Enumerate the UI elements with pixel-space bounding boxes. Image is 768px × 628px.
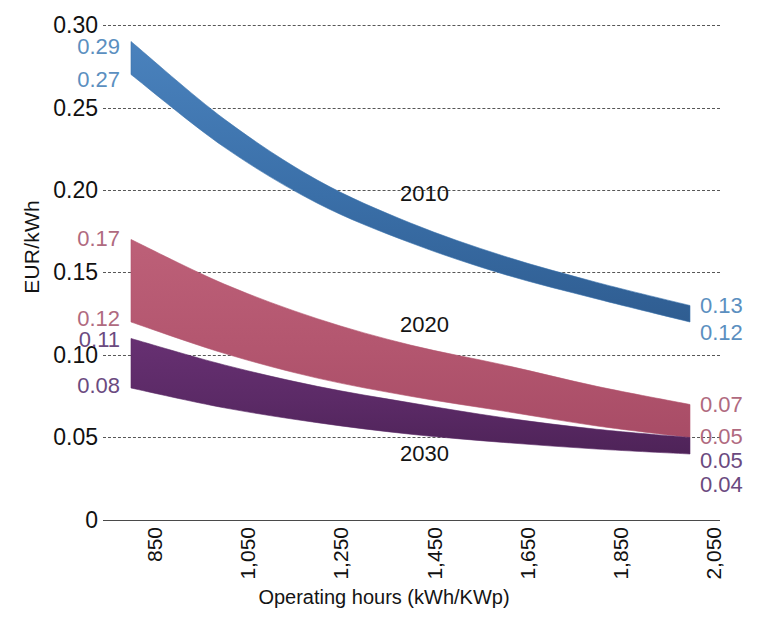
- value-label-right-2020-lower: 0.05: [700, 424, 743, 450]
- x-tick-label-3: 1,450: [423, 527, 447, 628]
- series-label-2010: 2010: [400, 181, 449, 207]
- x-tick-label-0: 850: [143, 527, 167, 628]
- x-tick-label-1: 1,050: [236, 527, 260, 628]
- value-label-left-2020-upper: 0.17: [0, 226, 120, 252]
- x-tick-label-2: 1,250: [329, 527, 353, 628]
- value-label-right-2010-upper: 0.13: [700, 293, 743, 319]
- chart-root: 0.30 0.25 0.20 0.15 0.10 0.05 0 EUR/kWh: [0, 0, 768, 628]
- value-label-right-2020-upper: 0.07: [700, 392, 743, 418]
- value-label-left-2030-upper: 0.11: [0, 327, 120, 353]
- value-label-left-2010-lower: 0.27: [0, 67, 120, 93]
- value-label-right-2030-upper: 0.05: [700, 448, 743, 474]
- value-label-right-2030-lower: 0.04: [700, 472, 743, 498]
- value-label-left-2030-lower: 0.08: [0, 373, 120, 399]
- value-label-left-2010-upper: 0.29: [0, 34, 120, 60]
- series-label-2020: 2020: [400, 312, 449, 338]
- value-label-right-2010-lower: 0.12: [700, 320, 743, 346]
- x-tick-label-6: 2,050: [702, 527, 726, 628]
- x-tick-label-4: 1,650: [516, 527, 540, 628]
- x-axis-title: Operating hours (kWh/KWp): [0, 586, 768, 609]
- series-label-2030: 2030: [400, 441, 449, 467]
- x-tick-label-5: 1,850: [609, 527, 633, 628]
